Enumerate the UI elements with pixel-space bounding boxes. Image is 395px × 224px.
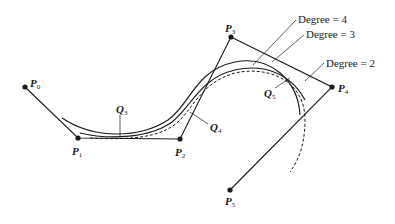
leader-q4	[190, 112, 208, 124]
control-point-p0	[22, 84, 27, 89]
label-degree-2: Degree = 2	[326, 57, 375, 69]
control-point-p5	[227, 187, 232, 192]
curve-degree-3	[80, 68, 305, 137]
label-p2: P2	[175, 146, 186, 160]
b-spline-degree-diagram: P0 P1 P2 P3 P4 P5 Q3 Q4 Q5 Degree = 4 De…	[0, 0, 395, 224]
leader-q5	[275, 78, 290, 88]
label-p5: P5	[225, 195, 236, 209]
label-q4: Q4	[210, 121, 222, 135]
label-degree-3: Degree = 3	[306, 28, 355, 40]
label-p4: P4	[338, 82, 349, 96]
label-p0: P0	[30, 77, 41, 91]
label-p1: P1	[72, 145, 83, 159]
control-point-p4	[329, 84, 334, 89]
label-q3: Q3	[116, 103, 128, 117]
control-polygon	[25, 37, 332, 190]
control-point-dots	[22, 34, 334, 192]
control-point-p2	[177, 136, 182, 141]
label-q5: Q5	[264, 87, 276, 101]
curve-degree-2	[90, 71, 305, 172]
leader-degree-3	[272, 35, 304, 62]
label-degree-4: Degree = 4	[298, 13, 347, 25]
label-p3: P3	[225, 22, 236, 36]
control-point-p1	[75, 135, 80, 140]
